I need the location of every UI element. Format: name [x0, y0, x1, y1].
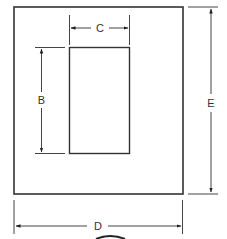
dimension-e: E [188, 7, 218, 194]
dimension-label-d: D [94, 220, 102, 232]
dimension-diagram: C B E D [0, 0, 227, 239]
dimension-b: B [35, 48, 65, 154]
bottom-curve-fragment [96, 236, 125, 239]
dimension-label-c: C [96, 22, 104, 34]
dimension-label-b: B [38, 94, 45, 106]
dimension-label-e: E [207, 97, 214, 109]
dimension-d: D [14, 200, 183, 234]
inner-opening [70, 48, 130, 154]
dimension-c: C [70, 15, 130, 45]
